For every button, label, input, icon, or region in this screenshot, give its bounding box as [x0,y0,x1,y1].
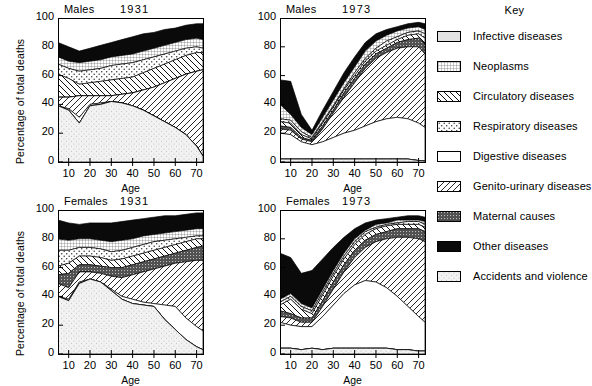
legend-item-respiratory-diseases[interactable]: Respiratory diseases [437,116,578,136]
y-tick-label: 20 [22,317,54,329]
legend-swatch-light-grey-solid [437,31,461,42]
x-axis-label: Age [280,374,425,386]
legend-item-label: Accidents and violence [473,270,588,282]
y-tick-label: 100 [244,10,276,22]
legend-title: Key [437,4,592,16]
legend-item-label: Circulatory diseases [473,90,574,102]
plot-year-label-males-1973: 1973 [342,3,371,15]
legend-item-infective-diseases[interactable]: Infective diseases [437,26,562,46]
chart-legend: Key Infective diseases [437,0,592,300]
plot-year-label-females-1931: 1931 [120,195,149,207]
y-tick-label: 60 [22,68,54,80]
legend-item-maternal-causes[interactable]: Maternal causes [437,206,555,226]
legend-swatch-fwd-hatch-coarse [437,181,461,192]
y-tick-label: 100 [244,202,276,214]
y-tick-label: 100 [22,10,54,22]
plot-sex-label-females-1931: Females [64,195,108,207]
y-tick-label: 40 [22,96,54,108]
plot-females-1931 [58,210,204,360]
x-axis-label: Age [280,182,425,194]
legend-item-label: Infective diseases [473,30,562,42]
y-tick-label: 20 [244,317,276,329]
y-tick-label: 100 [22,202,54,214]
legend-item-genito-urinary-diseases[interactable]: Genito-urinary diseases [437,176,591,196]
y-tick-label: 20 [244,125,276,137]
legend-item-other-diseases[interactable]: Other diseases [437,236,548,256]
legend-swatch-white-solid [437,151,461,162]
legend-swatch-black-solid [437,241,461,252]
y-tick-label: 40 [244,96,276,108]
y-tick-label: 40 [244,288,276,300]
y-tick-label: 0 [22,154,54,166]
x-axis-label: Age [58,182,203,194]
legend-swatch-dark-grey-stipple [437,211,461,222]
y-axis-label: Percentage of total deaths [14,39,26,164]
x-tick-label: 70 [407,167,431,179]
legend-swatch-sparse-dots [437,121,461,132]
legend-item-accidents-and-violence[interactable]: Accidents and violence [437,266,588,286]
plot-sex-label-males-1931: Males [64,3,94,15]
legend-item-label: Neoplasms [473,60,529,72]
legend-item-label: Other diseases [473,240,548,252]
legend-swatch-fine-grid-dots [437,61,461,72]
y-tick-label: 0 [244,346,276,358]
plot-males-1931 [58,18,204,168]
y-tick-label: 60 [244,260,276,272]
x-tick-label: 70 [185,359,209,371]
y-tick-label: 40 [22,288,54,300]
plot-year-label-females-1973: 1973 [342,195,371,207]
legend-item-digestive-diseases[interactable]: Digestive diseases [437,146,567,166]
legend-item-circulatory-diseases[interactable]: Circulatory diseases [437,86,574,106]
plot-males-1973 [280,18,426,168]
y-tick-label: 80 [22,231,54,243]
legend-item-label: Genito-urinary diseases [473,180,591,192]
y-tick-label: 80 [244,231,276,243]
y-tick-label: 0 [22,346,54,358]
plot-sex-label-females-1973: Females [286,195,330,207]
x-tick-label: 70 [407,359,431,371]
legend-item-label: Digestive diseases [473,150,567,162]
legend-swatch-back-hatch-coarse [437,91,461,102]
plot-year-label-males-1931: 1931 [120,3,149,15]
y-tick-label: 80 [244,39,276,51]
x-tick-label: 70 [185,167,209,179]
legend-item-neoplasms[interactable]: Neoplasms [437,56,529,76]
y-tick-label: 60 [22,260,54,272]
y-tick-label: 0 [244,154,276,166]
y-tick-label: 20 [22,125,54,137]
legend-item-label: Maternal causes [473,210,555,222]
y-tick-label: 60 [244,68,276,80]
y-tick-label: 80 [22,39,54,51]
area-band-accidents-and-violence [280,159,425,162]
y-axis-label: Percentage of total deaths [14,231,26,356]
plot-females-1973 [280,210,426,360]
legend-item-label: Respiratory diseases [473,120,578,132]
plot-sex-label-males-1973: Males [286,3,316,15]
legend-swatch-very-light-dots [437,271,461,282]
x-axis-label: Age [58,374,203,386]
